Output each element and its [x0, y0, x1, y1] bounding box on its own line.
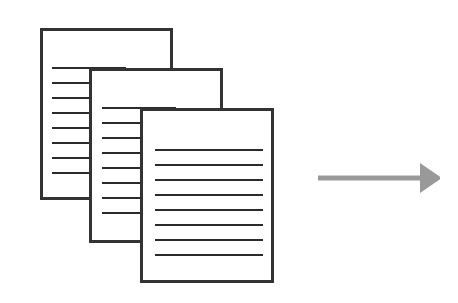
rule-line	[155, 239, 263, 241]
document-rule-lines	[143, 111, 271, 280]
rule-line	[155, 254, 263, 256]
rule-line	[155, 224, 263, 226]
rule-line	[155, 149, 263, 151]
rule-line	[155, 164, 263, 166]
rule-line	[155, 194, 263, 196]
rule-line	[155, 179, 263, 181]
document-front[interactable]	[140, 108, 274, 283]
rule-line	[155, 209, 263, 211]
process-arrow	[318, 162, 440, 194]
figure-title: Stack of lined documents with a right-po…	[0, 21, 1, 22]
arrow-right-icon	[318, 162, 440, 194]
diagram-canvas: Stack of lined documents with a right-po…	[0, 0, 458, 303]
arrow-shape	[318, 163, 440, 193]
